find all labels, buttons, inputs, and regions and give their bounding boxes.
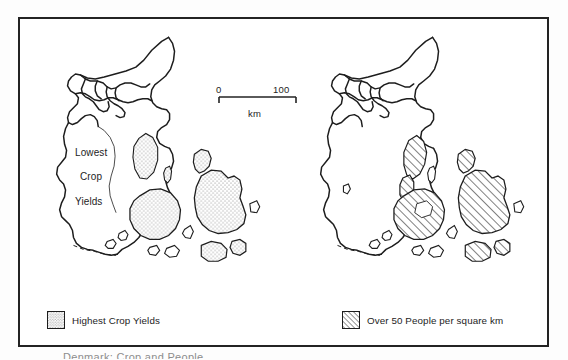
hatch-swatch-icon [342, 311, 360, 329]
scale-zero-label: 0 [216, 84, 221, 95]
island-zealand [194, 170, 246, 233]
map-population-density [284, 19, 548, 345]
legend-crop-yields: Highest Crop Yields [47, 311, 160, 329]
map-label-lowest: Lowest [75, 147, 107, 158]
scale-bar: 0 100 km [216, 85, 304, 121]
island-samso [164, 166, 172, 183]
map-label-yields: Yields [75, 196, 102, 207]
legend-crop-yields-label: Highest Crop Yields [72, 315, 160, 326]
crop-yields-map-svg [20, 19, 284, 345]
stipple-swatch-icon [47, 311, 65, 329]
figure-frame: 0 100 km Lowest Crop Yields [18, 17, 549, 347]
island-odsherred [457, 149, 475, 173]
scale-unit-label: km [248, 108, 261, 119]
scale-max-label: 100 [273, 84, 289, 95]
island-odsherred [193, 149, 211, 173]
legend-population-density-label: Over 50 People per square km [367, 315, 503, 326]
map-crop-yields [20, 19, 284, 345]
islands-lolland-falster [201, 239, 246, 261]
island-funen [130, 189, 181, 240]
island-zealand [458, 170, 510, 233]
islands-lolland-falster [465, 239, 510, 261]
map-label-crop: Crop [80, 171, 102, 182]
population-density-map-svg [284, 19, 548, 345]
scale-bar-graphic [216, 85, 304, 105]
figure-caption: Denmark: Crop and People [63, 351, 204, 359]
stipple-region-east-jutland [133, 133, 158, 179]
legend-population-density: Over 50 People per square km [342, 311, 503, 329]
hatch-region-east-jutland [403, 135, 426, 179]
figure-root: 0 100 km Lowest Crop Yields [0, 0, 568, 360]
